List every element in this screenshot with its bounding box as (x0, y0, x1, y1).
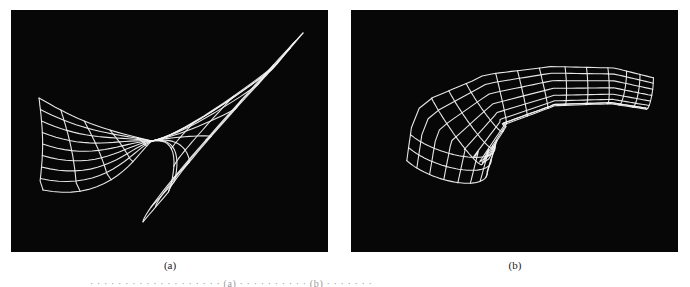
subfigure-label-a: (a) (150, 259, 190, 271)
wireframe-line (40, 141, 177, 208)
tube-wireframe-surface (351, 10, 678, 252)
figure-caption-cropped: · · · · · · · · · · · · · · · · · · · (a… (90, 278, 680, 287)
wireframe-line (40, 33, 303, 141)
wireframe-line (586, 67, 588, 104)
wireframe-line (483, 104, 647, 178)
wireframe-line (564, 67, 567, 106)
wireframe-line (607, 68, 609, 104)
saddle-wireframe-surface (11, 10, 328, 252)
wireframe-line (42, 140, 190, 178)
figure-panel-a (11, 10, 328, 252)
wireframe-line (39, 42, 294, 141)
figure-panel-b (351, 10, 678, 252)
subfigure-label-b: (b) (495, 259, 535, 271)
wireframe-line (483, 103, 646, 172)
